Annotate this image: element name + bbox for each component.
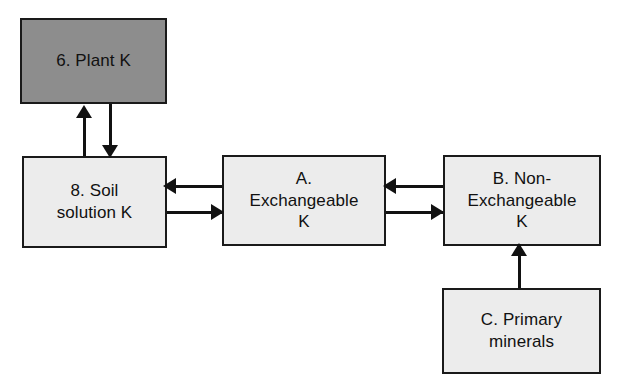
node-exchangeable-k-label: A. Exchangeable K <box>246 168 363 233</box>
edge-soil-to-plant-line <box>83 117 86 159</box>
arrow-up-icon-soil-to-plant <box>76 105 92 118</box>
node-non-exchangeable-k: B. Non- Exchangeable K <box>443 155 601 246</box>
node-primary-minerals-label: C. Primary minerals <box>477 309 566 353</box>
node-plant-k-label: 6. Plant K <box>52 50 135 72</box>
soil-potassium-cycle-diagram: 6. Plant K 8. Soil solution K A. Exchang… <box>0 0 622 390</box>
node-plant-k: 6. Plant K <box>20 18 167 104</box>
arrow-down-icon-plant-to-soil <box>102 145 118 158</box>
arrow-left-icon-non-exchangeable-to-exchangeable <box>383 178 396 194</box>
node-exchangeable-k: A. Exchangeable K <box>222 155 386 246</box>
edge-plant-to-soil-line <box>109 104 112 147</box>
node-soil-solution-k-label: 8. Soil solution K <box>53 180 137 224</box>
edge-primary-minerals-to-non-exchangeable-line <box>518 255 521 291</box>
node-primary-minerals: C. Primary minerals <box>442 288 601 374</box>
arrow-up-icon-primary-minerals-to-non-exchangeable <box>511 243 527 256</box>
node-non-exchangeable-k-label: B. Non- Exchangeable K <box>464 168 581 233</box>
node-soil-solution-k: 8. Soil solution K <box>22 156 167 248</box>
arrow-right-icon-soil-to-exchangeable <box>211 204 224 220</box>
arrow-left-icon-exchangeable-to-soil <box>163 178 176 194</box>
arrow-right-icon-exchangeable-to-non-exchangeable <box>431 204 444 220</box>
